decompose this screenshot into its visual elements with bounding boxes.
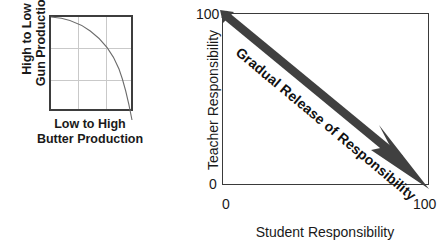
x-axis-tick-100: 100 <box>413 196 436 212</box>
gradual-release-arrow <box>218 9 436 193</box>
gradual-release-x-axis-label: Student Responsibility <box>235 224 415 240</box>
figure-canvas: High to Low Gun Production Low to High B… <box>0 0 447 251</box>
gradual-release-figure: Gradual Release of Responsibility 100 0 … <box>0 0 447 251</box>
x-axis-tick-0: 0 <box>222 196 230 212</box>
gradual-release-y-axis-label: Teacher Responsibility <box>205 12 221 188</box>
